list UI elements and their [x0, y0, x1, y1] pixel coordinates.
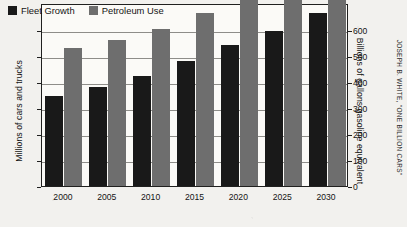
y-tick-label-right: 400 — [353, 79, 393, 88]
bar-fleet-growth — [45, 96, 63, 186]
bar-fleet-growth — [309, 13, 327, 186]
legend-swatch-icon — [8, 6, 17, 15]
bar-fleet-growth — [177, 61, 195, 186]
legend-label: Fleet Growth — [21, 5, 75, 16]
bar-fleet-growth — [221, 45, 239, 186]
bar-group — [42, 5, 86, 186]
legend-item: Petroleum Use — [89, 5, 164, 16]
bar-fleet-growth — [89, 87, 107, 186]
bar-petroleum-use — [196, 13, 214, 186]
chart-legend: Fleet GrowthPetroleum Use — [8, 5, 164, 16]
bar-group — [217, 5, 261, 186]
bar-group — [130, 5, 174, 186]
bar-petroleum-use — [240, 0, 258, 186]
bar-series-container — [42, 5, 347, 186]
legend-item: Fleet Growth — [8, 5, 75, 16]
source-credit: JOSEPH B. WHITE, "ONE BILLION CARS" — [396, 20, 403, 196]
legend-label: Petroleum Use — [102, 5, 164, 16]
bar-petroleum-use — [328, 0, 346, 186]
y-tick-label-right: 500 — [353, 53, 393, 62]
bar-group — [86, 5, 130, 186]
bar-group — [261, 5, 305, 186]
y-tick-right — [348, 187, 352, 188]
plot-area — [41, 4, 348, 187]
y-tick-label-right: 300 — [353, 105, 393, 114]
legend-swatch-icon — [89, 6, 98, 15]
y-tick-label-right: 100 — [353, 157, 393, 166]
y-tick-left — [37, 187, 41, 188]
bar-petroleum-use — [152, 29, 170, 186]
y-tick-label-right: 0 — [353, 183, 393, 192]
bar-petroleum-use — [64, 48, 82, 186]
y-axis-left-title: Millions of cars and trucks — [14, 36, 24, 186]
y-tick-label-right: 200 — [353, 131, 393, 140]
bar-petroleum-use — [108, 40, 126, 186]
y-tick-label-right: 600 — [353, 27, 393, 36]
bar-fleet-growth — [133, 76, 151, 187]
bar-fleet-growth — [265, 31, 283, 186]
bar-petroleum-use — [284, 0, 302, 186]
x-axis-label: 2030 — [296, 192, 356, 202]
bar-group — [305, 5, 349, 186]
chart-figure: Millions of cars and trucks Billions of … — [0, 0, 407, 227]
bar-group — [174, 5, 218, 186]
